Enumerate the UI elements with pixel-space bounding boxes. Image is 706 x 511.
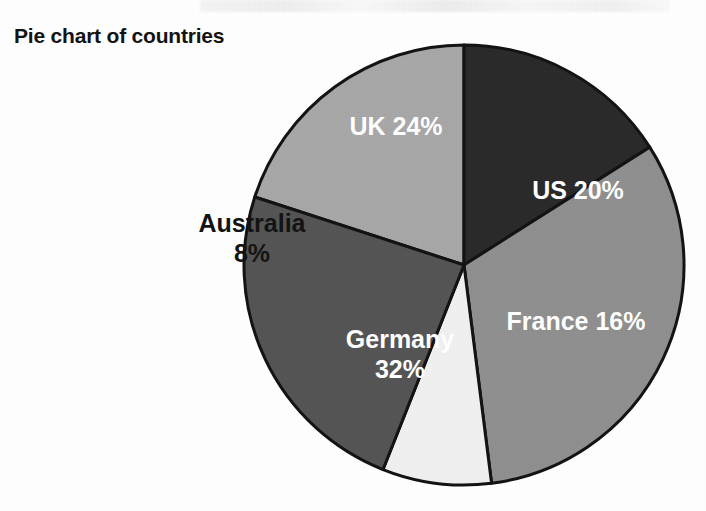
pie-slice-label-germany-line1: Germany — [346, 325, 454, 353]
pie-chart-svg: US 20%France 16%Germany32%Australia8%UK … — [0, 0, 706, 511]
pie-slice-label-us: US 20% — [532, 176, 624, 204]
pie-slice-label-germany-line2: 32% — [375, 355, 425, 383]
pie-slice-label-australia-line1: Australia — [199, 209, 307, 237]
pie-slices-group — [244, 45, 684, 485]
pie-slice-label-uk: UK 24% — [349, 112, 442, 140]
pie-chart-figure: US 20%France 16%Germany32%Australia8%UK … — [0, 0, 706, 511]
pie-slice-label-australia-line2: 8% — [234, 239, 270, 267]
pie-slice-label-france: France 16% — [507, 307, 646, 335]
pie-chart-page: Pie chart of countries US 20%France 16%G… — [0, 0, 706, 511]
